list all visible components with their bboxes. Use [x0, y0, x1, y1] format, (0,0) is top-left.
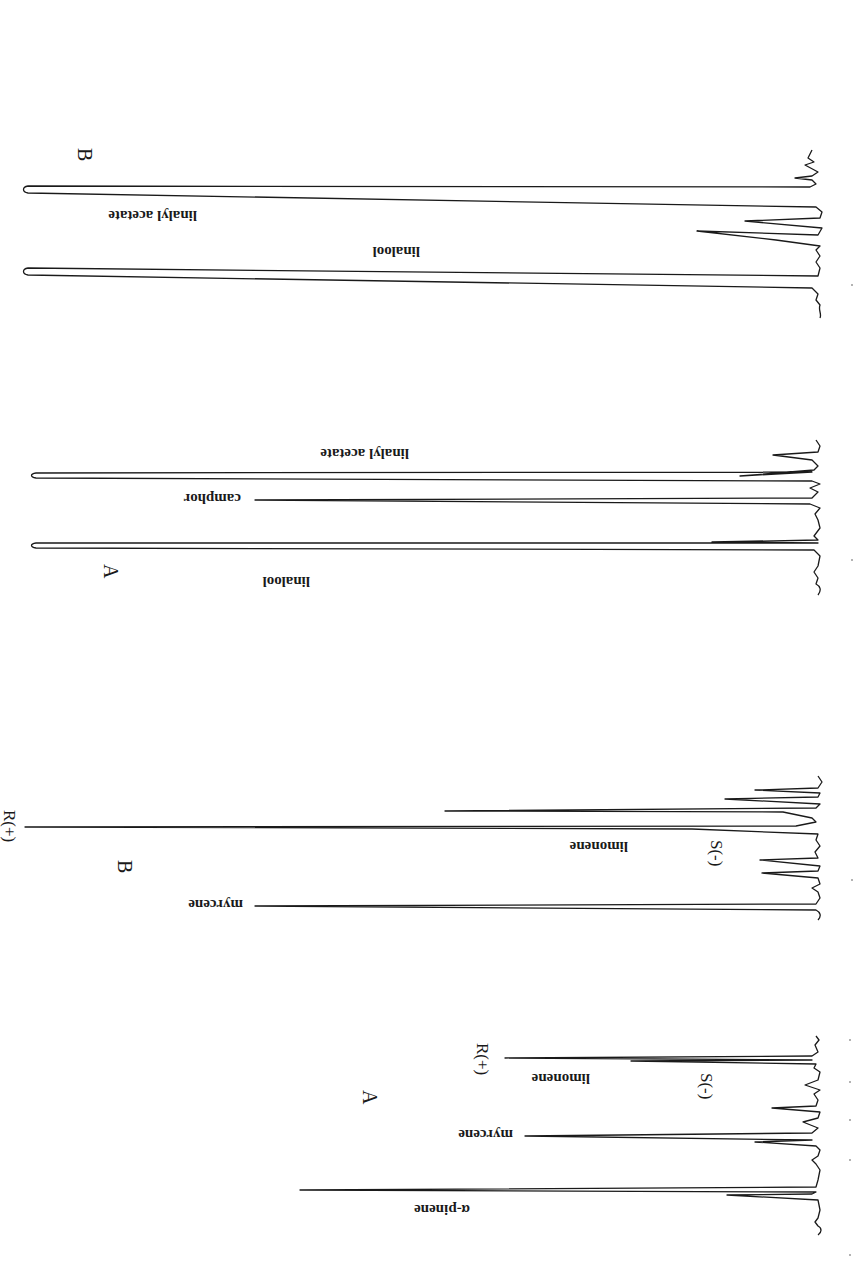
chromatogram-panel-1b: B myrcene limonene S(-) R(+) [0, 776, 822, 920]
chromatogram-figure: A α-pinene myrcene limonene S(-) R(+) B … [0, 0, 856, 1287]
trace-panel-2a [32, 440, 821, 595]
trace-panel-1a [300, 1036, 821, 1235]
panel-label-b: B [74, 148, 96, 161]
compound-label-linalyl-acetate: linalyl acetate [320, 446, 409, 462]
trace-panel-1b [25, 776, 822, 920]
compound-label-linalyl-acetate: linalyl acetate [108, 208, 197, 224]
scan-artifacts [849, 284, 853, 1256]
compound-label-limonene: limonene [569, 839, 628, 855]
compound-label-myrcene: myrcene [458, 1127, 513, 1143]
enantiomer-label-s: S(-) [707, 840, 726, 866]
compound-label-alpha-pinene: α-pinene [414, 1202, 470, 1218]
compound-label-linalool: linalool [372, 244, 420, 260]
panel-label-a: A [359, 1090, 381, 1105]
compound-label-limonene: limonene [531, 1071, 590, 1087]
chromatogram-panel-2b: B linalool linalyl acetate [24, 148, 823, 318]
enantiomer-label-s: S(-) [697, 1073, 716, 1099]
trace-panel-2b [24, 150, 823, 318]
chromatogram-panel-1a: A α-pinene myrcene limonene S(-) R(+) [300, 1036, 821, 1235]
compound-label-linalool: linalool [262, 574, 310, 590]
panel-label-a: A [100, 564, 122, 579]
chromatogram-panel-2a: A linalool camphor linalyl acetate [32, 440, 821, 595]
panel-label-b: B [114, 860, 136, 873]
compound-label-camphor: camphor [183, 491, 241, 507]
enantiomer-label-r: R(+) [0, 810, 19, 842]
compound-label-myrcene: myrcene [188, 897, 243, 913]
enantiomer-label-r: R(+) [473, 1043, 492, 1075]
